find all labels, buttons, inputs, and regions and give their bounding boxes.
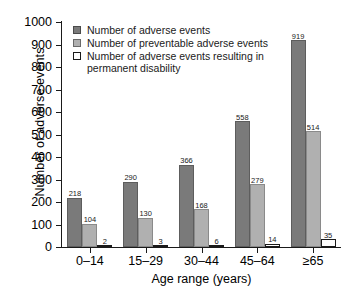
x-axis-tick	[202, 248, 203, 253]
bar-value-label: 366	[180, 157, 193, 165]
bar: 2	[97, 245, 112, 247]
y-axis-tick	[56, 112, 61, 113]
bar: 14	[265, 244, 280, 247]
bar: 279	[250, 184, 265, 247]
x-axis-tick-label: 30–44	[184, 255, 219, 268]
y-axis-tick-label: 0	[0, 241, 52, 254]
x-axis-tick	[90, 248, 91, 253]
y-axis-tick	[56, 67, 61, 68]
legend-label-line1: Number of adverse events resulting in	[87, 50, 264, 62]
bar-value-label: 104	[84, 216, 97, 224]
legend-item-permanent-disability: Number of adverse events resulting inper…	[73, 50, 313, 74]
bar-value-label: 14	[268, 236, 276, 244]
x-axis-title: Age range (years)	[62, 273, 341, 286]
y-axis-tick-label: 900	[0, 39, 52, 52]
x-axis-tick-label: 45–64	[240, 255, 275, 268]
bar-value-label: 218	[69, 190, 82, 198]
bar-value-label: 6	[214, 238, 218, 246]
legend-item-preventable-adverse-events: Number of preventable adverse events	[73, 37, 313, 49]
y-axis-tick-label: 1000	[0, 16, 52, 29]
legend-swatch-icon	[73, 52, 81, 60]
y-axis-tick	[56, 135, 61, 136]
y-axis-tick-label: 200	[0, 196, 52, 209]
bar: 35	[321, 239, 336, 247]
bar-chart: Number of adverse events 100090080070060…	[0, 0, 346, 290]
bar: 130	[138, 218, 153, 247]
y-axis-tick	[56, 180, 61, 181]
bar-value-label: 130	[139, 210, 152, 218]
bar-value-label: 279	[251, 177, 264, 185]
y-axis-tick-label: 600	[0, 106, 52, 119]
bar: 168	[194, 209, 209, 247]
y-axis-tick	[56, 22, 61, 23]
y-axis-tick	[56, 157, 61, 158]
bar: 6	[209, 245, 224, 247]
y-axis-tick	[56, 247, 61, 248]
bar-value-label: 168	[195, 202, 208, 210]
y-axis-tick-label: 100	[0, 219, 52, 232]
bar: 366	[179, 165, 194, 247]
bar: 3	[153, 245, 168, 247]
bar-value-label: 35	[324, 232, 332, 240]
bar-value-label: 290	[124, 174, 137, 182]
bar: 218	[67, 198, 82, 247]
y-axis-tick	[56, 90, 61, 91]
x-axis-tick-label: 15–29	[128, 255, 163, 268]
chart-legend: Number of adverse events Number of preve…	[73, 24, 313, 75]
bar-value-label: 3	[159, 238, 163, 246]
legend-swatch-icon	[73, 26, 81, 34]
legend-swatch-icon	[73, 39, 81, 47]
legend-label: Number of adverse events	[87, 24, 210, 36]
y-axis-tick-label: 800	[0, 61, 52, 74]
bar: 514	[306, 131, 321, 247]
x-axis-tick-label: 0–14	[76, 255, 104, 268]
bar: 104	[82, 224, 97, 247]
y-axis-tick-label: 500	[0, 129, 52, 142]
x-axis-tick	[257, 248, 258, 253]
y-axis-tick	[56, 202, 61, 203]
y-axis-title: Number of adverse events	[33, 22, 47, 222]
bar-value-label: 2	[103, 238, 107, 246]
legend-item-adverse-events: Number of adverse events	[73, 24, 313, 36]
y-axis-tick	[56, 45, 61, 46]
bar: 558	[235, 121, 250, 247]
y-axis-tick	[56, 225, 61, 226]
y-axis-tick-label: 700	[0, 84, 52, 97]
bar-value-label: 514	[307, 124, 320, 132]
bar: 290	[123, 182, 138, 247]
legend-label-line2: permanent disability	[87, 62, 180, 74]
x-axis-tick-label: ≥65	[303, 255, 324, 268]
y-axis-tick-label: 300	[0, 174, 52, 187]
x-axis-tick	[146, 248, 147, 253]
y-axis-tick-label: 400	[0, 151, 52, 164]
legend-label: Number of preventable adverse events	[87, 37, 268, 49]
legend-label: Number of adverse events resulting inper…	[87, 50, 264, 74]
bar-value-label: 558	[236, 114, 249, 122]
x-axis-tick	[313, 248, 314, 253]
